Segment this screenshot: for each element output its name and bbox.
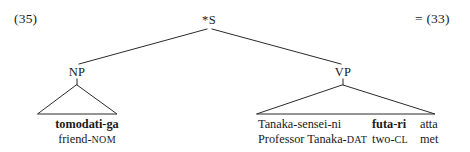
vp-gloss-row: Professor Tanaka-DATtwo-CLmet [258,132,438,148]
vp-gloss-1-case-tag: DAT [347,134,367,145]
vp-constituent-triangle [257,85,435,114]
example-number: (35) [14,12,37,26]
np-constituent-triangle [38,85,117,114]
np-gloss-case-tag: NOM [92,134,116,145]
np-gloss-line: friend-NOM [55,132,119,148]
syntax-tree-figure: (35) = (33) *S NP VP tomodati-ga friend-… [0,0,470,152]
vp-surface-form-1: Tanaka-sensei-ni [258,117,372,132]
vp-surface-form-3: atta [420,117,438,132]
np-terminal-gloss: tomodati-ga friend-NOM [55,117,119,147]
vp-gloss-2-classifier-tag: CL [395,134,408,145]
vp-surface-form-2: futa-ri [372,117,420,132]
branch-root-to-np [79,29,207,64]
np-gloss-stem: friend- [58,132,91,146]
branch-root-to-vp [212,29,341,64]
vp-gloss-3: met [420,132,438,147]
vp-terminal-gloss: Tanaka-sensei-nifuta-riatta Professor Ta… [258,117,438,147]
vp-gloss-2: two-CL [372,132,420,148]
vp-gloss-1: Professor Tanaka-DAT [258,132,372,148]
np-surface-form: tomodati-ga [55,117,119,132]
node-label-vp: VP [335,66,352,79]
vp-gloss-1-stem: Professor Tanaka- [258,132,347,146]
cross-reference-label: = (33) [415,12,450,26]
vp-gloss-2-stem: two- [372,132,395,146]
node-label-np: NP [69,66,86,79]
node-label-root-s: *S [202,14,216,27]
vp-surface-form-row: Tanaka-sensei-nifuta-riatta [258,117,438,132]
